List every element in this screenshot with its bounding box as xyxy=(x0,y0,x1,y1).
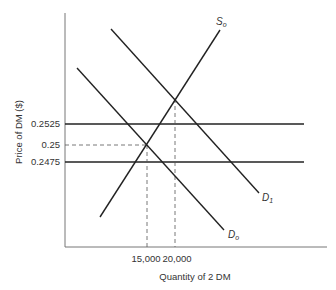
demand-curve-d0 xyxy=(77,68,224,230)
s0-label: So xyxy=(216,16,227,28)
demand-curve-d1 xyxy=(111,29,259,193)
y-tick-0.25: 0.25 xyxy=(42,139,61,150)
forex-supply-demand-chart: So D1 Do 0.2525 0.25 0.2475 15,000 20,00… xyxy=(0,0,336,290)
d0-label: Do xyxy=(228,229,239,241)
x-tick-20000: 20,000 xyxy=(162,253,191,264)
y-tick-0.2475: 0.2475 xyxy=(31,156,60,167)
x-tick-15000: 15,000 xyxy=(131,253,160,264)
y-tick-0.2525: 0.2525 xyxy=(31,118,60,129)
d1-label: D1 xyxy=(262,192,273,204)
y-axis-title: Price of DM ($) xyxy=(13,100,24,164)
x-axis-title: Quantity of 2 DM xyxy=(159,271,230,282)
